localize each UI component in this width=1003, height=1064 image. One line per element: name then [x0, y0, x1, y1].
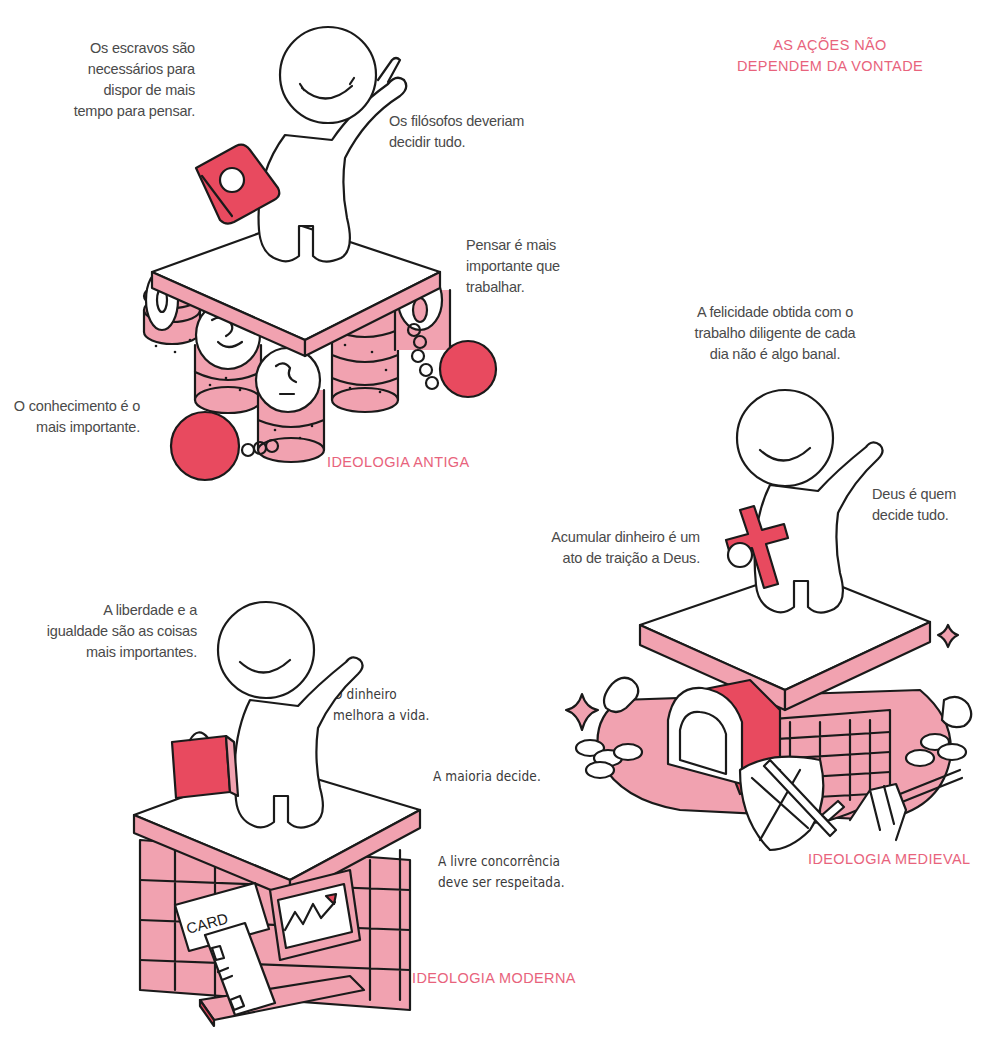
briefcase-icon	[172, 732, 238, 798]
infographic-page: AS AÇÕES NÃO DEPENDEM DA VONTADE Os escr…	[0, 0, 1003, 1064]
moderna-illustration: CARD	[0, 0, 1003, 1064]
